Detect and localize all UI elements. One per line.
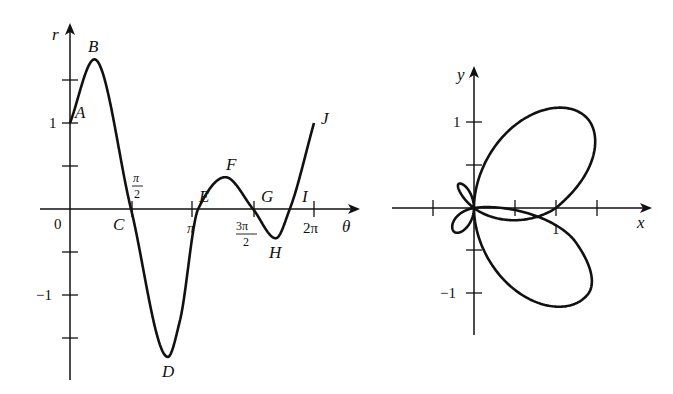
pi-label: π [187, 220, 195, 236]
x-tick-1-label: 1 [552, 221, 560, 237]
r-axis-label: r [52, 25, 59, 44]
point-D-label: D [161, 362, 175, 381]
pi-half-denominator: 2 [134, 187, 140, 201]
figure-canvas: r θ 0 1 −1 π 2 π 3π 2 2π A B C D E F G H… [0, 0, 673, 394]
point-J-label: J [321, 109, 330, 128]
point-F-label: F [225, 155, 237, 174]
origin-label: 0 [54, 216, 62, 232]
point-G-label: G [261, 187, 273, 206]
polar-curve-graph: y x 1 1 −1 [392, 65, 650, 335]
two-pi-label: 2π [303, 220, 319, 236]
y-axis-label: y [455, 65, 465, 84]
cartesian-r-theta-graph: r θ 0 1 −1 π 2 π 3π 2 2π A B C D E F G H… [36, 25, 358, 381]
r-tick-1-label: 1 [49, 115, 57, 131]
point-B-label: B [88, 37, 99, 56]
pi-half-numerator: π [133, 171, 140, 185]
r-tick-minus1-label: −1 [36, 287, 52, 303]
three-pi-half-numerator: 3π [236, 219, 248, 233]
y-tick-1-label: 1 [453, 114, 461, 130]
three-pi-half-denominator: 2 [243, 235, 249, 249]
point-H-label: H [268, 243, 283, 262]
point-C-label: C [113, 215, 125, 234]
theta-axis-label: θ [342, 217, 350, 236]
point-I-label: I [301, 187, 309, 206]
x-axis-label: x [636, 213, 645, 232]
y-tick-minus1-label: −1 [440, 285, 456, 301]
point-A-label: A [74, 103, 86, 122]
point-E-label: E [198, 187, 210, 206]
